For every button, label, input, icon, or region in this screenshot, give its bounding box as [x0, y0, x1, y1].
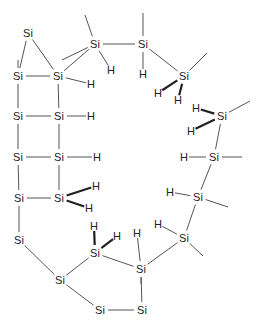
bond-si1-si2	[20, 41, 26, 68]
silicon-atom-si5: Si	[138, 38, 148, 50]
hydrogen-atom-h11: H	[187, 125, 195, 137]
hydrogen-atom-h7: H	[93, 151, 101, 163]
silicon-atom-si14: Si	[217, 110, 227, 122]
hydrogen-atom-h1: H	[107, 64, 115, 76]
silicon-atom-si11: Si	[14, 192, 24, 204]
hydrogen-atom-h6: H	[87, 110, 95, 122]
bond-si20-si21	[66, 285, 93, 305]
bond-si18-h16	[101, 239, 113, 248]
bond-si15-si14	[216, 124, 221, 149]
methyl-bond-si14	[229, 101, 250, 112]
atoms-layer: SiSiSiSiSiSiSiSiSiSiSiSiSiSiSiSiSiSiSiSi…	[13, 27, 227, 316]
bond-si14-h11	[196, 119, 215, 128]
hydrogen-atom-h9: H	[85, 202, 93, 214]
bonds-layer	[18, 40, 220, 310]
hydrogen-atom-h4: H	[154, 87, 162, 99]
bond-si18-si19	[103, 256, 134, 267]
hydrogen-atom-h16: H	[113, 230, 121, 242]
hydrogen-atom-h3: H	[139, 68, 147, 80]
hydrogen-atom-h14: H	[154, 218, 162, 230]
silicon-atom-si7: Si	[13, 110, 23, 122]
hydrogen-atom-h5: H	[174, 94, 182, 106]
hydrogen-atom-h13: H	[166, 186, 174, 198]
methyl-bond-si4	[85, 15, 92, 36]
bond-si19-si17	[147, 243, 177, 265]
silicon-atom-si19: Si	[136, 263, 146, 275]
silicon-atom-si15: Si	[209, 151, 219, 163]
silicon-atom-si22: Si	[137, 304, 147, 316]
silicon-atom-si6: Si	[179, 70, 189, 82]
silicon-atom-si18: Si	[90, 247, 100, 259]
bond-si3-h2	[66, 78, 86, 83]
bond-si19-h17	[138, 238, 141, 261]
silicon-atom-si10: Si	[54, 151, 64, 163]
silicon-atom-si8: Si	[54, 110, 64, 122]
bond-si20-si18	[66, 258, 88, 275]
silicon-atom-si9: Si	[13, 151, 23, 163]
silicon-atom-si1: Si	[23, 27, 33, 39]
bond-si12-h9	[67, 201, 85, 207]
bond-si6-h4	[162, 80, 177, 90]
bond-si17-h14	[162, 226, 177, 234]
silicon-atom-si21: Si	[95, 304, 105, 316]
silicon-atom-si3: Si	[53, 70, 63, 82]
bond-si18-h15	[94, 231, 95, 245]
silicon-atom-si12: Si	[54, 192, 64, 204]
bond-si5-si6	[149, 49, 177, 71]
bond-si3-si8	[58, 84, 59, 108]
hydrogen-atom-h17: H	[133, 227, 141, 239]
bond-si16-si15	[201, 164, 211, 189]
hydrogen-atom-h2: H	[87, 78, 95, 90]
silicon-atom-si20: Si	[55, 274, 65, 286]
silicon-atom-si4: Si	[90, 38, 100, 50]
methyl-bond-si17	[190, 244, 203, 256]
bond-si14-h10	[201, 109, 215, 113]
silicon-atom-si17: Si	[179, 232, 189, 244]
silicon-atom-si13: Si	[14, 234, 24, 246]
silicon-atom-si16: Si	[193, 191, 203, 203]
bond-si16-h13	[175, 193, 190, 196]
bond-si9-si11	[18, 165, 19, 190]
methyl-bond-si16	[206, 200, 228, 207]
hydrogen-atom-h12: H	[180, 151, 188, 163]
silicon-atom-si2: Si	[13, 70, 23, 82]
methyl-bond-si6	[190, 53, 207, 70]
hydrogen-atom-h15: H	[90, 220, 98, 232]
bond-si12-h8	[67, 188, 92, 196]
bond-si17-si16	[187, 205, 196, 231]
hydrogen-atom-h8: H	[92, 180, 100, 192]
hydrogen-atom-h10: H	[192, 102, 200, 114]
bond-si13-si20	[25, 246, 55, 275]
polysilane-structure-diagram: SiSiSiSiSiSiSiSiSiSiSiSiSiSiSiSiSiSiSiSi…	[0, 0, 258, 329]
bond-si1-si3	[33, 40, 54, 70]
